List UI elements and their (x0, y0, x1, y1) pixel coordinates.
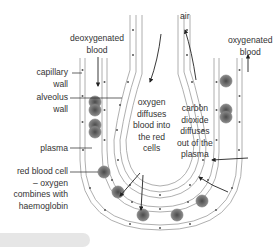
plasma-label: plasma (40, 143, 68, 155)
alveolus-wall-label: alveolus wall (36, 92, 68, 115)
diagram: air deoxygenated blood oxygenated blood … (0, 0, 280, 247)
oxygen-diffuses-label: oxygen diffuses blood into the red cells (133, 97, 170, 155)
capillary-wall-label: capillary wall (36, 67, 68, 90)
red-blood-cell-label: red blood cell – oxygen combines with ha… (14, 166, 68, 212)
air-label: air (180, 11, 190, 23)
carbon-dioxide-diffuses-label: carbon dioxide diffuses out of the plasm… (177, 103, 213, 161)
oxygenated-blood-label: oxygenated blood (228, 35, 272, 58)
caption-bar (0, 233, 90, 247)
air-in-arrow (150, 34, 161, 82)
deoxygenated-blood-label: deoxygenated blood (70, 33, 124, 56)
co2-arrow-1 (212, 158, 248, 160)
